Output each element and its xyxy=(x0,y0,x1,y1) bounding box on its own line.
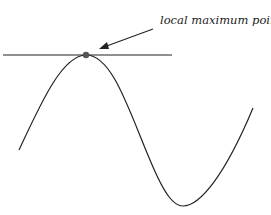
local-maximum-point xyxy=(83,52,89,58)
arrow-head-icon xyxy=(99,42,109,49)
arrow-shaft xyxy=(104,29,153,47)
curve xyxy=(19,55,253,206)
annotation-label: local maximum point xyxy=(160,13,271,27)
diagram-canvas xyxy=(0,0,271,215)
